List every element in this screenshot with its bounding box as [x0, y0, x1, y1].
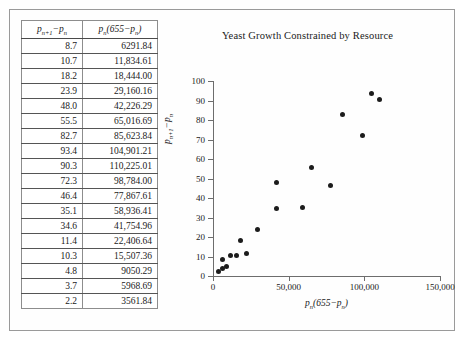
- y-tick-label: 70: [196, 135, 205, 145]
- x-tick-mark: [289, 276, 290, 281]
- table-header-row: pn+1−pn pn(655−pn): [22, 21, 158, 39]
- table-head: pn+1−pn pn(655−pn): [22, 21, 158, 39]
- scatter-point: [238, 238, 243, 243]
- x-tick-mark: [440, 276, 441, 281]
- x-tick-label: 0: [211, 282, 216, 292]
- cell-product: 18,444.00: [83, 68, 158, 83]
- scatter-point: [255, 227, 260, 232]
- scatter-point: [274, 206, 279, 211]
- scatter-point: [360, 133, 365, 138]
- table-body: 8.76291.8410.711,834.6118.218,444.0023.9…: [22, 38, 158, 308]
- scatter-point: [216, 269, 221, 274]
- cell-product: 29,160.16: [83, 83, 158, 98]
- table-row: 10.711,834.61: [22, 53, 158, 68]
- x-tick-label: 50,000: [276, 282, 301, 292]
- scatter-point: [309, 165, 314, 170]
- scatter-point: [274, 180, 279, 185]
- scatter-point: [224, 264, 229, 269]
- cell-product: 22,406.64: [83, 233, 158, 248]
- cell-product: 98,784.00: [83, 173, 158, 188]
- table-row: 90.3110,225.01: [22, 158, 158, 173]
- cell-product: 58,936.41: [83, 203, 158, 218]
- table-row: 34.641,754.96: [22, 218, 158, 233]
- cell-delta: 23.9: [22, 83, 83, 98]
- y-tick-mark: [208, 218, 213, 219]
- cell-delta: 2.2: [22, 293, 83, 308]
- cell-delta: 46.4: [22, 188, 83, 203]
- cell-product: 15,507.36: [83, 248, 158, 263]
- cell-product: 110,225.01: [83, 158, 158, 173]
- x-axis-line: [213, 276, 440, 277]
- scatter-point: [377, 97, 382, 102]
- cell-product: 9050.29: [83, 263, 158, 278]
- cell-delta: 82.7: [22, 128, 83, 143]
- y-axis-title: pn+1−pn: [162, 114, 174, 144]
- scatter-point: [369, 91, 374, 96]
- table-row: 93.4104,901.21: [22, 143, 158, 158]
- y-tick-label: 90: [196, 96, 205, 106]
- column-header-delta: pn+1−pn: [22, 21, 83, 39]
- cell-delta: 72.3: [22, 173, 83, 188]
- scatter-point: [340, 112, 345, 117]
- cell-product: 42,226.29: [83, 98, 158, 113]
- table-row: 8.76291.84: [22, 38, 158, 53]
- scatter-point: [220, 257, 225, 262]
- y-tick-mark: [208, 198, 213, 199]
- cell-delta: 55.5: [22, 113, 83, 128]
- y-tick-mark: [208, 237, 213, 238]
- table-row: 23.929,160.16: [22, 83, 158, 98]
- cell-product: 5968.69: [83, 278, 158, 293]
- y-tick-label: 0: [201, 271, 206, 281]
- data-table: pn+1−pn pn(655−pn) 8.76291.8410.711,834.…: [21, 20, 158, 309]
- scatter-point: [228, 253, 233, 258]
- cell-delta: 10.7: [22, 53, 83, 68]
- cell-delta: 3.7: [22, 278, 83, 293]
- y-tick-mark: [208, 140, 213, 141]
- cell-product: 77,867.61: [83, 188, 158, 203]
- y-tick-label: 50: [196, 174, 205, 184]
- cell-product: 6291.84: [83, 38, 158, 53]
- y-tick-label: 60: [196, 154, 205, 164]
- figure-frame: pn+1−pn pn(655−pn) 8.76291.8410.711,834.…: [9, 9, 455, 331]
- cell-product: 11,834.61: [83, 53, 158, 68]
- y-tick-mark: [208, 120, 213, 121]
- table-row: 35.158,936.41: [22, 203, 158, 218]
- y-tick-mark: [208, 81, 213, 82]
- cell-product: 3561.84: [83, 293, 158, 308]
- x-tick-label: 150,000: [425, 282, 454, 292]
- scatter-point: [328, 183, 333, 188]
- y-tick-label: 80: [196, 115, 205, 125]
- y-tick-mark: [208, 257, 213, 258]
- x-tick-mark: [364, 276, 365, 281]
- cell-delta: 8.7: [22, 38, 83, 53]
- y-tick-label: 10: [196, 252, 205, 262]
- cell-product: 65,016.69: [83, 113, 158, 128]
- scatter-point: [300, 205, 305, 210]
- table-row: 3.75968.69: [22, 278, 158, 293]
- cell-delta: 34.6: [22, 218, 83, 233]
- cell-product: 41,754.96: [83, 218, 158, 233]
- y-tick-label: 20: [196, 232, 205, 242]
- table-row: 2.23561.84: [22, 293, 158, 308]
- table-row: 48.042,226.29: [22, 98, 158, 113]
- cell-delta: 93.4: [22, 143, 83, 158]
- table-row: 72.398,784.00: [22, 173, 158, 188]
- plot-area: 0102030405060708090100 050,000100,000150…: [213, 81, 440, 276]
- cell-product: 85,623.84: [83, 128, 158, 143]
- y-tick-label: 40: [196, 193, 205, 203]
- y-axis-line: [213, 81, 214, 277]
- cell-delta: 4.8: [22, 263, 83, 278]
- chart-title: Yeast Growth Constrained by Resource: [160, 30, 455, 41]
- y-tick-label: 100: [192, 76, 206, 86]
- scatter-point: [244, 251, 249, 256]
- column-header-product: pn(655−pn): [83, 21, 158, 39]
- table-row: 10.315,507.36: [22, 248, 158, 263]
- data-table-panel: pn+1−pn pn(655−pn) 8.76291.8410.711,834.…: [21, 20, 158, 309]
- cell-delta: 90.3: [22, 158, 83, 173]
- x-tick-label: 100,000: [350, 282, 379, 292]
- table-row: 82.785,623.84: [22, 128, 158, 143]
- table-row: 46.477,867.61: [22, 188, 158, 203]
- table-row: 11.422,406.64: [22, 233, 158, 248]
- y-tick-mark: [208, 179, 213, 180]
- table-row: 55.565,016.69: [22, 113, 158, 128]
